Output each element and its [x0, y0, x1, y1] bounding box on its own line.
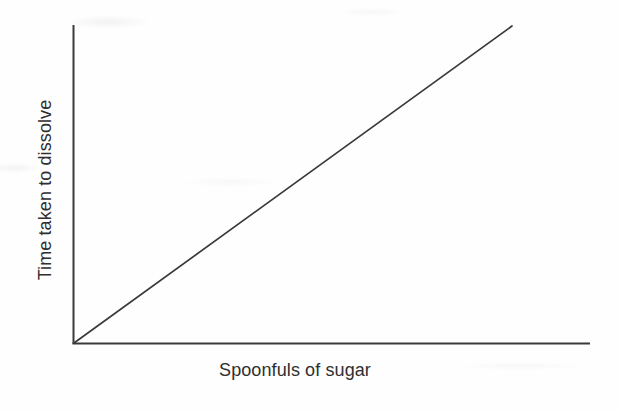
y-axis-label: Time taken to dissolve	[36, 60, 54, 320]
chart-figure: Time taken to dissolve Spoonfuls of suga…	[0, 0, 619, 410]
x-axis-label: Spoonfuls of sugar	[0, 361, 590, 379]
trend-line-series-1	[74, 26, 512, 343]
plot-area	[0, 0, 619, 410]
